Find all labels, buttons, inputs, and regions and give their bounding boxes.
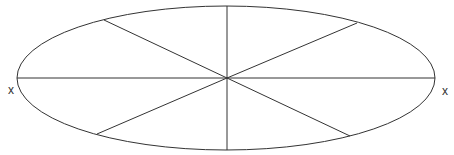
radial-spokes — [17, 6, 435, 150]
ellipse-spoke-diagram — [0, 0, 454, 155]
left-x-label: x — [8, 84, 14, 96]
spoke-upper-right — [227, 23, 357, 78]
spoke-lower-right — [227, 78, 350, 136]
spoke-upper-left — [104, 20, 227, 78]
spoke-lower-left — [97, 78, 227, 134]
right-x-label: x — [442, 85, 448, 97]
